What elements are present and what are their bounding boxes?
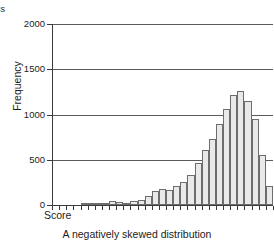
histogram-bar — [209, 139, 216, 205]
x-tick-mark — [95, 206, 96, 210]
histogram-bar — [252, 119, 259, 205]
x-tick-mark — [223, 206, 224, 210]
figure-container: ss Frequency 0 500 1000 1500 2000 Score … — [0, 0, 274, 248]
histogram-bar — [145, 196, 152, 205]
histogram-bar — [81, 203, 88, 205]
histogram-bar — [166, 190, 173, 205]
histogram-bar — [266, 186, 273, 205]
histogram-bar — [237, 91, 244, 205]
histogram-bar — [180, 182, 187, 205]
y-tick-label-1500: 1500 — [24, 63, 45, 74]
histogram-bar — [109, 201, 116, 205]
x-tick-mark — [145, 206, 146, 210]
histogram-bar — [88, 203, 95, 205]
histogram-bar — [130, 201, 137, 205]
x-tick-mark — [252, 206, 253, 210]
histogram-bars — [52, 24, 273, 205]
histogram-bar — [116, 202, 123, 205]
histogram-bar — [230, 95, 237, 205]
y-tick-label-500: 500 — [29, 154, 45, 165]
x-tick-mark — [173, 206, 174, 210]
y-axis-labels: 0 500 1000 1500 2000 — [0, 0, 45, 248]
x-tick-mark — [216, 206, 217, 210]
x-tick-mark — [166, 206, 167, 210]
x-tick-mark — [109, 206, 110, 210]
x-tick-mark — [202, 206, 203, 210]
x-tick-mark — [123, 206, 124, 210]
x-tick-mark — [159, 206, 160, 210]
x-tick-mark — [102, 206, 103, 210]
chart-caption: A negatively skewed distribution — [0, 228, 274, 240]
x-tick-mark — [273, 206, 274, 210]
histogram-bar — [123, 203, 130, 205]
x-tick-mark — [130, 206, 131, 210]
x-tick-mark — [180, 206, 181, 210]
x-tick-mark — [81, 206, 82, 210]
histogram-bar — [138, 200, 145, 205]
x-tick-mark — [187, 206, 188, 210]
x-axis-title: Score — [44, 209, 71, 221]
y-tick-label-2000: 2000 — [24, 18, 45, 29]
histogram-bar — [259, 155, 266, 205]
x-tick-mark — [209, 206, 210, 210]
x-tick-mark — [116, 206, 117, 210]
x-tick-mark — [88, 206, 89, 210]
x-tick-mark — [73, 206, 74, 210]
x-tick-mark — [195, 206, 196, 210]
histogram-bar — [216, 124, 223, 205]
histogram-bar — [195, 163, 202, 205]
histogram-bar — [173, 186, 180, 205]
x-tick-mark — [138, 206, 139, 210]
x-tick-mark — [237, 206, 238, 210]
histogram-bar — [152, 191, 159, 205]
x-tick-mark — [266, 206, 267, 210]
histogram-bar — [244, 101, 251, 205]
histogram-bar — [187, 175, 194, 205]
x-tick-mark — [152, 206, 153, 210]
x-tick-mark — [244, 206, 245, 210]
histogram-bar — [95, 203, 102, 205]
y-tick-label-1000: 1000 — [24, 109, 45, 120]
x-axis-line — [52, 205, 273, 206]
histogram-bar — [159, 189, 166, 205]
x-tick-mark — [259, 206, 260, 210]
x-tick-mark — [230, 206, 231, 210]
histogram-bar — [202, 150, 209, 205]
histogram-bar — [223, 109, 230, 205]
histogram-bar — [102, 203, 109, 205]
